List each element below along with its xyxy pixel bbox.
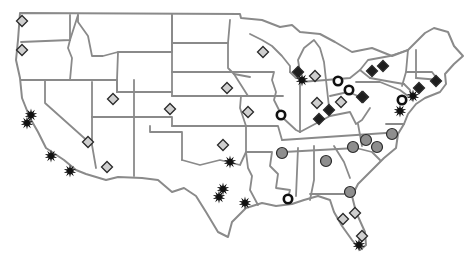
gray-circle-icon [321, 156, 332, 167]
us-map-canvas [0, 0, 474, 259]
gray-circle-icon [387, 129, 398, 140]
ring-icon [284, 195, 292, 203]
gray-circle-icon [361, 135, 372, 146]
ring-icon [345, 86, 353, 94]
ring-icon [277, 111, 285, 119]
us-map [0, 0, 474, 259]
gray-circle-icon [372, 142, 383, 153]
gray-circle-icon [348, 142, 359, 153]
gray-circle-icon [277, 148, 288, 159]
ring-icon [334, 77, 342, 85]
ring-icon [398, 96, 406, 104]
gray-circle-icon [345, 187, 356, 198]
